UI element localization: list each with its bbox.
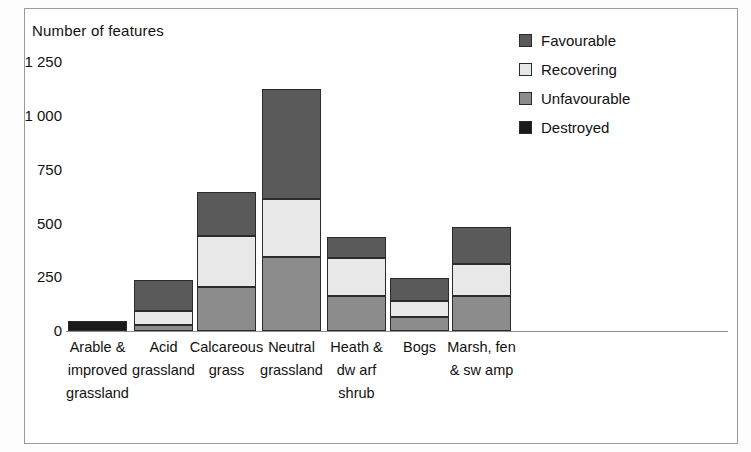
y-tick-label: 1 250 (0, 54, 62, 69)
bar-segment-recovering (390, 301, 449, 317)
x-axis-line (66, 331, 728, 332)
bar-segment-unfavourable (452, 296, 511, 331)
bar-segment-unfavourable (197, 287, 256, 331)
bar-segment-favourable (262, 89, 321, 199)
bar-segment-unfavourable (327, 296, 386, 331)
bar-segment-recovering (327, 258, 386, 296)
legend-swatch-icon (519, 34, 532, 47)
legend-item: Destroyed (519, 113, 729, 142)
chart-page: Number of features 1 2501 0007505002500 … (0, 0, 751, 452)
bar-segment-favourable (390, 278, 449, 301)
bar-segment-recovering (197, 236, 256, 287)
bar-segment-recovering (134, 311, 193, 325)
bar-column (68, 0, 127, 331)
legend-label: Recovering (541, 61, 617, 78)
y-tick-label: 0 (0, 323, 62, 338)
bar-segment-favourable (134, 280, 193, 310)
bar-segment-favourable (327, 237, 386, 257)
legend-swatch-icon (519, 63, 532, 76)
bar-segment-unfavourable (134, 325, 193, 331)
legend: FavourableRecoveringUnfavourableDestroye… (519, 26, 729, 142)
bar-segment-unfavourable (390, 317, 449, 331)
legend-label: Unfavourable (541, 90, 630, 107)
bar-column (262, 0, 321, 331)
bar-segment-favourable (452, 227, 511, 265)
bar-segment-favourable (197, 192, 256, 236)
x-axis-labels: Arable & improved grasslandAcid grasslan… (66, 336, 728, 446)
x-tick-label: Arable & improved grassland (60, 336, 135, 405)
x-tick-label: Marsh, fen & sw amp (444, 336, 519, 382)
legend-label: Favourable (541, 32, 616, 49)
bar-column (134, 0, 193, 331)
y-tick-label: 750 (0, 162, 62, 177)
legend-label: Destroyed (541, 119, 609, 136)
bar-segment-recovering (262, 199, 321, 257)
x-tick-label: Neutral grassland (254, 336, 329, 382)
legend-item: Recovering (519, 55, 729, 84)
bar-column (452, 0, 511, 331)
y-tick-label: 500 (0, 216, 62, 231)
legend-item: Unfavourable (519, 84, 729, 113)
bar-segment-destroyed (68, 321, 127, 331)
bar-column (327, 0, 386, 331)
legend-swatch-icon (519, 92, 532, 105)
legend-swatch-icon (519, 121, 532, 134)
bar-segment-recovering (452, 264, 511, 295)
bar-segment-unfavourable (262, 257, 321, 331)
bar-column (197, 0, 256, 331)
y-tick-label: 1 000 (0, 108, 62, 123)
legend-item: Favourable (519, 26, 729, 55)
x-tick-label: Calcareous grass (189, 336, 264, 382)
bar-column (390, 0, 449, 331)
y-tick-label: 250 (0, 269, 62, 284)
